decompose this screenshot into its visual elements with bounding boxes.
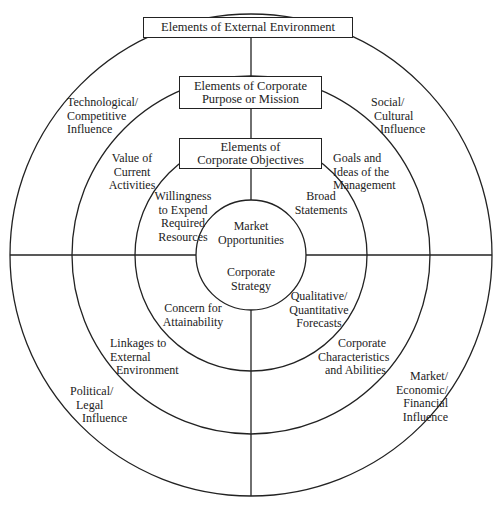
willingness-expend-resources-label: Willingness to Expend Required Resources	[147, 190, 219, 244]
market-opportunities-label: Market Opportunities	[215, 220, 287, 247]
linkages-external-environment-label: Linkages to External Environment	[110, 337, 179, 378]
corporate-objectives-box: Elements of Corporate Objectives	[179, 138, 322, 169]
value-current-activities-label: Value of Current Activities	[102, 152, 162, 193]
broad-statements-label: Broad Statements	[290, 190, 352, 217]
corporate-strategy-label: Corporate Strategy	[215, 266, 287, 293]
social-cultural-label: Social/ Cultural Influence	[371, 96, 425, 137]
concern-attainability-label: Concern for Attainability	[157, 302, 229, 329]
technological-competitive-label: Technological/ Competitive Influence	[67, 96, 138, 137]
market-economic-financial-label: Market/ Economic/ Financial Influence	[373, 370, 448, 424]
qualitative-quantitative-forecasts-label: Qualitative/ Quantitative Forecasts	[283, 290, 355, 331]
corporate-characteristics-label: Corporate Characteristics and Abilities	[318, 337, 386, 378]
corporate-purpose-box: Elements of Corporate Purpose or Mission	[179, 76, 322, 109]
external-environment-box: Elements of External Environment	[143, 17, 353, 38]
political-legal-label: Political/ Legal Influence	[70, 385, 127, 426]
goals-ideas-management-label: Goals and Ideas of the Management	[333, 152, 396, 193]
